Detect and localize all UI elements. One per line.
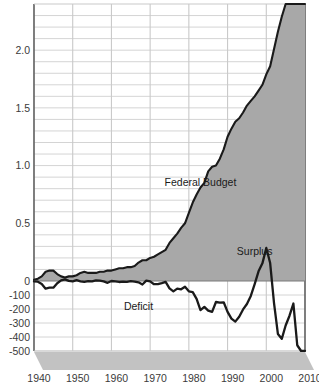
y-tick-upper: 0 <box>24 275 30 287</box>
y-tick-upper: 0.5 <box>15 217 30 229</box>
y-tick-lower: -200 <box>9 303 30 315</box>
y-tick-lower: -400 <box>9 331 30 343</box>
y-axis-ticks: 2.01.51.00.50-100-200-300-400-500 <box>9 44 30 357</box>
y-tick-lower: -300 <box>9 317 30 329</box>
chart-canvas: 2.01.51.00.50-100-200-300-400-500 194019… <box>0 0 319 387</box>
x-tick: 1970 <box>143 372 167 384</box>
y-tick-lower: -500 <box>9 345 30 357</box>
y-tick-lower: -100 <box>9 289 30 301</box>
x-tick: 2010 <box>298 372 319 384</box>
y-tick-upper: 2.0 <box>15 44 30 56</box>
budget-chart: 2.01.51.00.50-100-200-300-400-500 194019… <box>0 0 319 387</box>
x-tick: 2000 <box>260 372 284 384</box>
x-tick: 1950 <box>66 372 90 384</box>
federal-budget-label: Federal Budget <box>165 176 237 188</box>
x-tick: 1990 <box>221 372 245 384</box>
x-tick: 1980 <box>182 372 206 384</box>
x-tick: 1940 <box>27 372 51 384</box>
y-tick-upper: 1.0 <box>15 159 30 171</box>
base-platform <box>34 352 314 370</box>
deficit-label: Deficit <box>124 300 153 312</box>
y-tick-upper: 1.5 <box>15 102 30 114</box>
surplus-label: Surplus <box>237 245 273 257</box>
x-axis-ticks: 19401950196019701980199020002010 <box>27 372 319 384</box>
x-tick: 1960 <box>105 372 129 384</box>
